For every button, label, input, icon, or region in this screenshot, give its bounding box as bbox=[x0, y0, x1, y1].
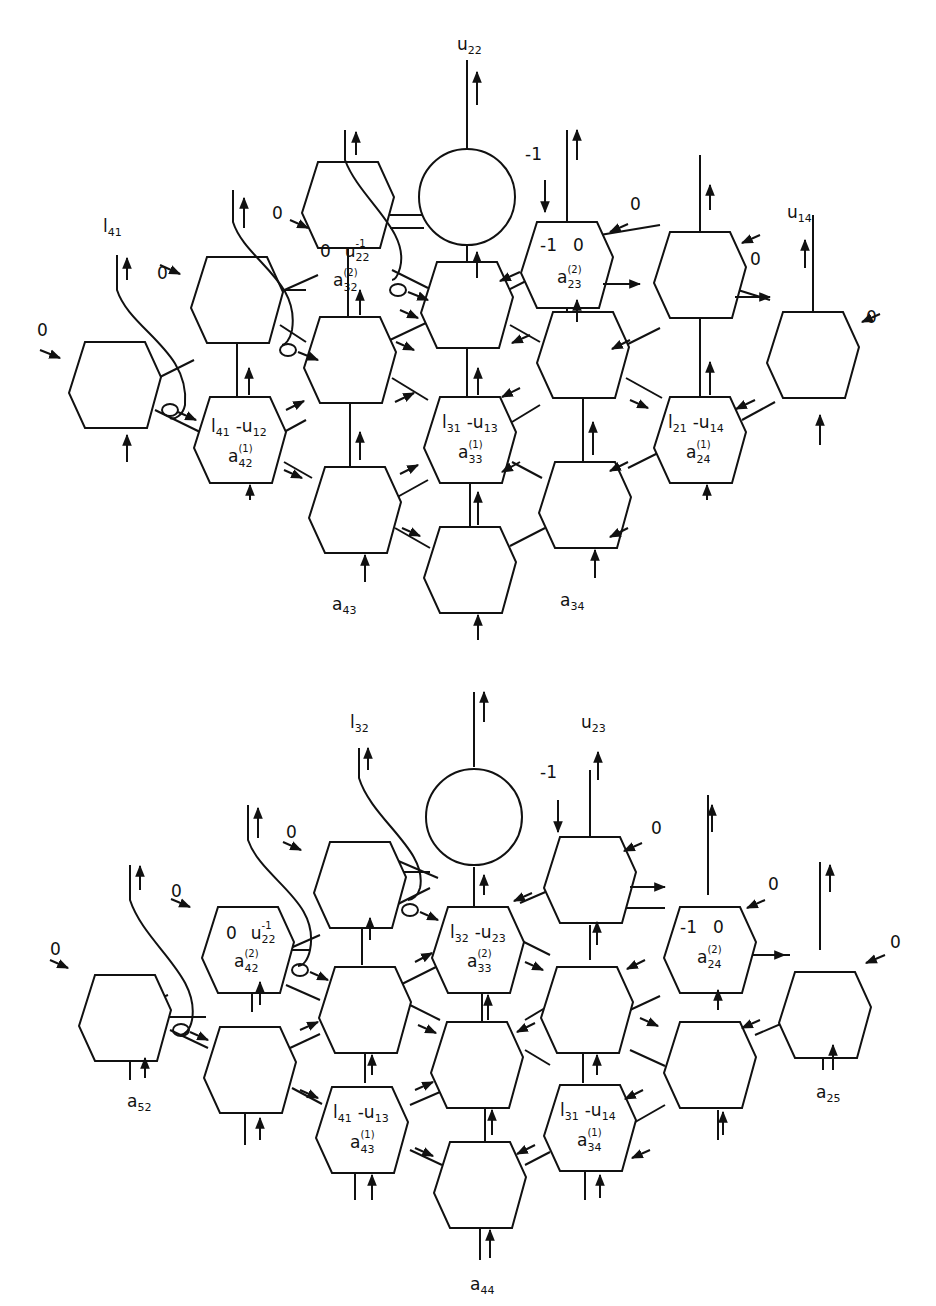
top-panel: u22 l41 -1 u14 0 0 0 0 0 0 0u22-1 a32(2)… bbox=[37, 34, 880, 640]
zero-input: 0 bbox=[286, 822, 297, 842]
hex-cell-a42 bbox=[194, 397, 286, 483]
zero-input: 0 bbox=[272, 203, 283, 223]
label-l32: l32 bbox=[350, 712, 369, 735]
hex-cell bbox=[779, 972, 871, 1058]
zero-input: 0 bbox=[768, 874, 779, 894]
cell-a33-line2: a33(1) bbox=[458, 439, 483, 466]
hex-cell bbox=[314, 842, 406, 928]
hex-cell bbox=[767, 312, 859, 398]
label-a44: a44 bbox=[470, 1274, 494, 1297]
bottom-panel: l32 u23 -1 0 0 0 0 0 0 0u22-1 a42(2) l32… bbox=[50, 692, 901, 1297]
cell-a43-line2: a43(1) bbox=[350, 1129, 375, 1156]
label-a34: a34 bbox=[560, 590, 584, 613]
cell-a42-line1: 0u22-1 bbox=[226, 920, 276, 946]
cell-a24-line2: a24(2) bbox=[697, 944, 722, 971]
hex-cell bbox=[424, 527, 516, 613]
hex-cell bbox=[69, 342, 161, 428]
division-cell-circle bbox=[426, 769, 522, 865]
label-u23: u23 bbox=[581, 712, 606, 735]
zero-input: 0 bbox=[50, 939, 61, 959]
zero-input: 0 bbox=[630, 194, 641, 214]
cell-a23-line2: a23(2) bbox=[557, 264, 582, 291]
cell-a32-line1: 0u22-1 bbox=[320, 238, 370, 264]
systolic-array-figure: u22 l41 -1 u14 0 0 0 0 0 0 0u22-1 a32(2)… bbox=[0, 0, 936, 1306]
label-minus-one: -1 bbox=[525, 144, 542, 164]
hex-cell bbox=[537, 312, 629, 398]
zero-input: 0 bbox=[890, 932, 901, 952]
hex-cell-a32 bbox=[302, 162, 394, 248]
label-l41: l41 bbox=[103, 216, 122, 239]
cell-a34-line2: a34(1) bbox=[577, 1127, 602, 1154]
cell-a32-line2: a32(2) bbox=[333, 267, 358, 294]
label-minus-one: -1 bbox=[540, 762, 557, 782]
label-u22: u22 bbox=[457, 34, 482, 57]
label-a25: a25 bbox=[816, 1082, 840, 1105]
hex-cell bbox=[539, 462, 631, 548]
division-cell-circle bbox=[419, 149, 515, 245]
hex-cell bbox=[421, 262, 513, 348]
cell-a42-line2: a42(1) bbox=[228, 443, 253, 470]
zero-input: 0 bbox=[157, 263, 168, 283]
zero-input: 0 bbox=[750, 249, 761, 269]
hex-cell bbox=[204, 1027, 296, 1113]
zero-input: 0 bbox=[651, 818, 662, 838]
zero-input: 0 bbox=[37, 320, 48, 340]
label-u14: u14 bbox=[787, 202, 812, 225]
cell-a24-line2: a24(1) bbox=[686, 439, 711, 466]
hex-cell bbox=[431, 1022, 523, 1108]
hex-cell bbox=[664, 1022, 756, 1108]
cell-a33-line2: a33(2) bbox=[467, 948, 492, 975]
hex-cell bbox=[79, 975, 171, 1061]
zero-input: 0 bbox=[171, 881, 182, 901]
hex-cell bbox=[544, 837, 636, 923]
label-a43: a43 bbox=[332, 594, 356, 617]
hex-cell bbox=[541, 967, 633, 1053]
hex-cell bbox=[434, 1142, 526, 1228]
label-a52: a52 bbox=[127, 1091, 151, 1114]
cell-a42-line2: a42(2) bbox=[234, 948, 259, 975]
hex-cell bbox=[654, 232, 746, 318]
hex-cell bbox=[309, 467, 401, 553]
hex-cell bbox=[319, 967, 411, 1053]
zero-input: 0 bbox=[866, 307, 877, 327]
